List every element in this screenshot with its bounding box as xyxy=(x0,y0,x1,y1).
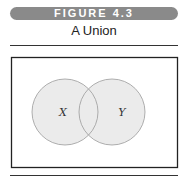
set-x-label: X xyxy=(58,106,68,119)
bottom-rule xyxy=(10,175,178,176)
venn-diagram: X Y xyxy=(0,0,188,184)
